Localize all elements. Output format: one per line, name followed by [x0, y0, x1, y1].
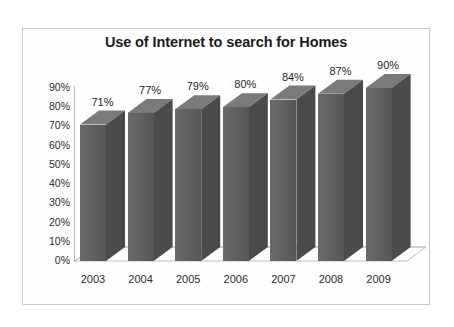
x-axis: 2003200420052006200720082009 [22, 28, 430, 305]
x-axis-tick-label: 2007 [263, 273, 303, 285]
x-axis-tick-label: 2009 [359, 273, 399, 285]
x-axis-tick-label: 2005 [168, 273, 208, 285]
x-axis-tick-label: 2003 [73, 273, 113, 285]
x-axis-tick-label: 2006 [216, 273, 256, 285]
x-axis-tick-label: 2008 [311, 273, 351, 285]
bar-chart: Use of Internet to search for Homes 90%8… [22, 28, 430, 305]
x-axis-tick-label: 2004 [121, 273, 161, 285]
